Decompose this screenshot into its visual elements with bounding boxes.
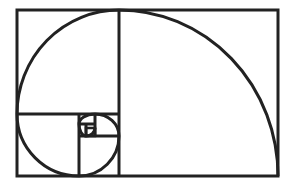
spiral-arc xyxy=(17,10,278,176)
outer-rectangle xyxy=(17,10,278,176)
golden-spiral-diagram xyxy=(0,0,286,181)
